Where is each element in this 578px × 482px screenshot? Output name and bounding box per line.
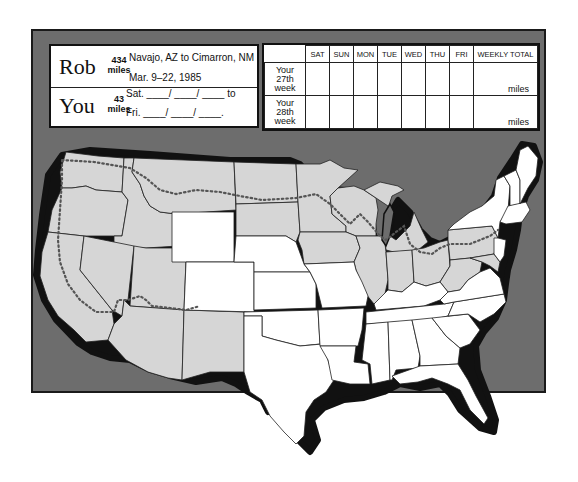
cell-week28-total[interactable]: miles [474,96,538,129]
you-miles-value: 43 [114,94,124,104]
column-header-sat: SAT [306,46,330,63]
runner-row: Rob 434 miles Navajo, AZ to Cimarron, NM… [51,46,257,88]
weekly-log-table: SAT SUN MON TUE WED THU FRI WEEKLY TOTAL… [264,45,538,129]
cell-week28-mon[interactable] [354,96,378,129]
row-label-line: week [274,116,295,126]
cell-week28-sun[interactable] [330,96,354,129]
cell-week27-tue[interactable] [378,63,402,96]
column-header-fri: FRI [450,46,474,63]
mileage-info-box: Rob 434 miles Navajo, AZ to Cimarron, NM… [49,44,259,128]
you-start-date-line[interactable]: Sat. ____/ ____/ ____ to [126,88,236,99]
cell-week28-thu[interactable] [426,96,450,129]
runner-miles-unit: miles [107,65,130,75]
cell-week27-sun[interactable] [330,63,354,96]
state-arkansas [318,308,364,346]
column-header-sun: SUN [330,46,354,63]
row-label-week-28: Your 28th week [265,96,306,129]
table-row: Your 27th week miles [265,63,538,96]
row-label-line: week [274,83,295,93]
state-kansas [254,272,316,310]
row-label-week-27: Your 27th week [265,63,306,96]
cell-week27-wed[interactable] [402,63,426,96]
you-name: You [59,93,95,119]
column-header-mon: MON [354,46,378,63]
column-header-thu: THU [426,46,450,63]
cell-week27-sat[interactable] [306,63,330,96]
runner-route: Navajo, AZ to Cimarron, NM [129,52,254,63]
you-end-date-line[interactable]: Fri. ____/ ____/ ____. [126,107,224,118]
table-header-row: SAT SUN MON TUE WED THU FRI WEEKLY TOTAL [265,46,538,63]
column-header-weekly-total: WEEKLY TOTAL [474,46,538,63]
state-colorado [184,262,254,312]
cell-week28-sat[interactable] [306,96,330,129]
runner-name: Rob [59,54,96,80]
cell-week27-fri[interactable] [450,63,474,96]
runner-miles-value: 434 [111,55,126,65]
cell-week27-mon[interactable] [354,63,378,96]
state-washington [60,152,124,192]
cell-week28-tue[interactable] [378,96,402,129]
state-wyoming [172,212,234,262]
table-corner [265,46,306,63]
runner-dates: Mar. 9–22, 1985 [129,72,201,83]
cell-week27-total[interactable]: miles [474,63,538,96]
column-header-wed: WED [402,46,426,63]
cell-week27-thu[interactable] [426,63,450,96]
cell-week28-wed[interactable] [402,96,426,129]
table-row: Your 28th week miles [265,96,538,129]
state-new-mexico [182,310,244,380]
cell-week28-fri[interactable] [450,96,474,129]
column-header-tue: TUE [378,46,402,63]
state-iowa [298,232,360,264]
you-row: You 43 miles Sat. ____/ ____/ ____ to Fr… [51,87,257,126]
